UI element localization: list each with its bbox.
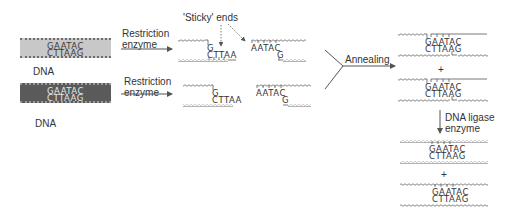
ligated-molecule-2 xyxy=(400,183,488,207)
diagram-lines xyxy=(0,0,506,217)
fragment-row-1 xyxy=(178,39,306,62)
fragment-row-2 xyxy=(183,84,311,107)
ligated-molecule-1 xyxy=(400,140,488,164)
annealed-molecule-1 xyxy=(398,33,488,57)
annealed-molecule-2 xyxy=(398,78,488,102)
